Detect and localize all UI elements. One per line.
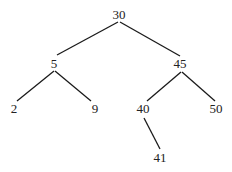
edge-40-41 bbox=[144, 118, 160, 149]
edge-30-5 bbox=[57, 22, 118, 55]
edge-5-2 bbox=[17, 71, 54, 101]
node-41: 41 bbox=[154, 150, 167, 165]
binary-tree-diagram: 30 5 45 2 9 40 50 41 bbox=[0, 0, 232, 172]
node-9: 9 bbox=[92, 101, 99, 116]
edge-45-40 bbox=[147, 72, 181, 101]
edge-5-9 bbox=[55, 71, 91, 101]
node-5: 5 bbox=[51, 56, 58, 71]
node-30: 30 bbox=[113, 7, 126, 22]
edge-45-50 bbox=[182, 72, 215, 101]
node-2: 2 bbox=[11, 101, 18, 116]
node-50: 50 bbox=[210, 101, 223, 116]
node-40: 40 bbox=[137, 101, 150, 116]
edge-30-45 bbox=[120, 22, 180, 56]
node-45: 45 bbox=[174, 56, 187, 71]
